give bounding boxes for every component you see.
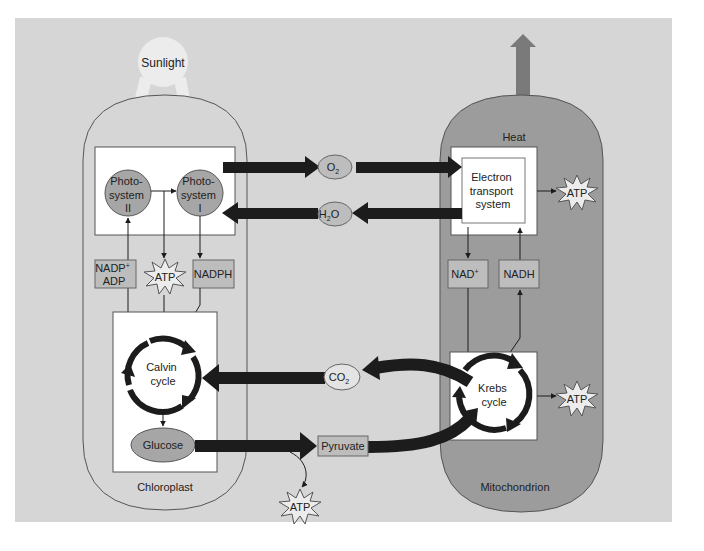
nadp-label: NADP — [95, 262, 126, 274]
chloroplast-label: Chloroplast — [137, 481, 193, 493]
psi-line1: Photo- — [182, 175, 215, 187]
svg-text:ATP: ATP — [290, 501, 311, 513]
svg-text:ATP: ATP — [155, 271, 176, 283]
sunlight-label: Sunlight — [141, 56, 185, 70]
psii-line2: system — [109, 189, 144, 201]
psi-line2: system — [181, 189, 216, 201]
glucose-label: Glucose — [143, 439, 183, 451]
nadph-label: NADPH — [194, 268, 233, 280]
svg-text:ATP: ATP — [567, 393, 588, 405]
mitochondrion-label: Mitochondrion — [480, 481, 549, 493]
svg-text:ATP: ATP — [567, 187, 588, 199]
photosynthesis-respiration-diagram: Sunlight Heat Photo- system II Photo- sy… — [0, 0, 704, 551]
svg-text:NAD+: NAD+ — [451, 268, 478, 280]
nadh-label: NADH — [503, 268, 534, 280]
heat-label: Heat — [502, 131, 525, 143]
psii-line1: Photo- — [110, 175, 143, 187]
psii-line3: II — [125, 202, 131, 214]
psi-line3: I — [198, 202, 201, 214]
adp-label: ADP — [103, 275, 126, 287]
svg-text:Electron transport sys: Electron transport system — [470, 171, 516, 210]
svg-text:Pyruvate: Pyruvate — [321, 440, 364, 452]
